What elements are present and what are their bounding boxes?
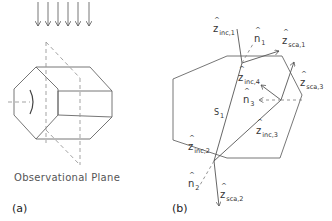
label-z-sca-3: zsca,3 bbox=[300, 78, 323, 91]
label-z-inc-3: zinc,3 bbox=[256, 126, 278, 139]
panel-a-label: (a) bbox=[12, 202, 27, 215]
label-n-3: n3 bbox=[243, 95, 254, 108]
observational-plane-label: Observational Plane bbox=[14, 172, 120, 183]
label-z-inc-4: zinc,4 bbox=[238, 73, 260, 86]
label-z-sca-1: zsca,1 bbox=[282, 36, 305, 49]
panel-b-label: (b) bbox=[172, 202, 188, 215]
label-z-sca-2: zsca,2 bbox=[220, 190, 243, 203]
label-n-1: n1 bbox=[254, 34, 265, 47]
panel-a-incident-arrows bbox=[38, 2, 89, 26]
figure: Observational Plane (a) (b) zinc,1 n1 zs… bbox=[0, 0, 332, 221]
rotation-arrow-icon bbox=[30, 90, 33, 114]
label-z-inc-1: zinc,1 bbox=[213, 24, 235, 37]
panel-a-observational-plane bbox=[8, 42, 80, 165]
label-z-inc-2: zinc,2 bbox=[188, 142, 210, 155]
label-n-2: n2 bbox=[188, 179, 199, 192]
label-s-1: S1 bbox=[214, 109, 224, 120]
panel-a-prism bbox=[14, 67, 112, 139]
